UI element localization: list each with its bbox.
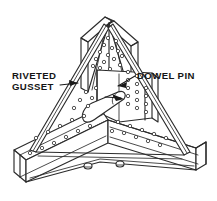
rivet-dot <box>116 49 119 52</box>
rivet-dot <box>135 106 138 109</box>
rivet-dot <box>126 86 129 89</box>
rivet-dot <box>78 98 81 101</box>
rivet-dot <box>84 90 87 93</box>
rivet-dot <box>144 110 147 113</box>
rivet-dot <box>144 102 147 105</box>
rivet-dot <box>58 124 61 127</box>
rivet-dot <box>64 135 67 138</box>
rivet-dot <box>158 143 161 146</box>
rivet-dot <box>72 106 75 109</box>
rivet-dot <box>108 67 111 70</box>
rivet-dot <box>126 94 129 97</box>
rivet-dot <box>88 124 91 127</box>
rivet-dot <box>28 151 31 154</box>
rivet-dot <box>102 43 105 46</box>
rivet-dot <box>116 120 119 123</box>
rivet-dot <box>120 54 123 57</box>
riveted-gusset-joint-figure: RIVETED GUSSET DOWEL PIN <box>0 0 217 201</box>
rivet-dot <box>122 131 125 134</box>
rivet-dot <box>98 66 101 69</box>
diagram-root: RIVETED GUSSET DOWEL PIN <box>0 0 217 201</box>
rivet-dot <box>52 141 55 144</box>
rivet-dot <box>152 132 155 135</box>
rivet-dot <box>118 63 121 66</box>
rivet-dot <box>91 64 94 67</box>
rivet-dot <box>146 139 149 142</box>
rivet-dot <box>164 136 167 139</box>
right-arm-web <box>196 142 206 170</box>
rivet-dot <box>135 98 138 101</box>
rivet-dot <box>135 90 138 93</box>
rivet-dot <box>126 70 129 73</box>
rivet-dot <box>102 60 105 63</box>
base-fastener-right <box>116 161 124 167</box>
rivet-dot <box>144 86 147 89</box>
rivet-dot <box>106 53 109 56</box>
rivet-dot <box>90 96 93 99</box>
rivet-dot <box>134 135 137 138</box>
rivet-dot <box>126 102 129 105</box>
rivet-dot <box>94 57 97 60</box>
rivet-dot <box>40 146 43 149</box>
rivet-dot <box>76 129 79 132</box>
rivet-dot <box>110 129 113 132</box>
base-fastener-right-head <box>116 161 124 167</box>
rivet-dot <box>34 136 37 139</box>
rivet-dot <box>114 39 117 42</box>
rivet-dot <box>135 82 138 85</box>
rivet-dot <box>82 114 85 117</box>
rivet-dot <box>110 46 113 49</box>
dowel-pin-label: DOWEL PIN <box>137 70 195 81</box>
base-fastener-left-head <box>84 163 92 169</box>
rivet-dot <box>106 36 109 39</box>
rivet-dot <box>128 124 131 127</box>
rivet-dot <box>144 94 147 97</box>
rivet-dot <box>98 50 101 53</box>
rivet-dot <box>140 128 143 131</box>
vertical-arm-ridge <box>105 17 114 21</box>
base-fastener-left <box>84 163 92 169</box>
rivet-dot <box>70 118 73 121</box>
rivet-dot <box>46 130 49 133</box>
rivet-dot <box>86 104 89 107</box>
riveted-gusset-label-line1: RIVETED <box>12 70 56 81</box>
rivet-dot <box>112 57 115 60</box>
rivet-dot <box>94 86 97 89</box>
riveted-gusset-label-line2: GUSSET <box>12 81 54 92</box>
